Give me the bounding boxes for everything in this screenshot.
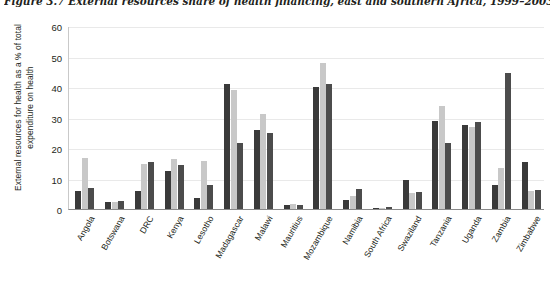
x-tick-label-wrap: Madagascar [237,214,238,215]
bar [231,90,237,209]
bar [409,193,415,209]
bar [528,191,534,209]
bar-group [462,27,481,209]
figure-container: Figure 3.7 External resources share of h… [0,0,550,297]
x-tick-label-wrap: DRC [147,214,148,215]
x-tick-label-wrap: Uganda [475,214,476,215]
x-tick-label: Zimbabwe [514,214,542,253]
x-tick-label: Botswana [99,214,127,252]
bar-group [313,27,332,209]
bar [373,208,379,209]
x-tick-label-wrap: Tanzania [445,214,446,215]
bar-group [105,27,124,209]
bar [498,168,504,209]
bar [432,121,438,209]
bar [105,202,111,209]
bar [75,191,81,209]
page-title: Figure 3.7 External resources share of h… [4,0,550,8]
bar-group [194,27,213,209]
y-tick-label: 10 [2,176,62,186]
bar [194,198,200,209]
bar [201,161,207,209]
bar [254,130,260,209]
x-tick-label-wrap: Botswana [118,214,119,215]
bar [148,162,154,209]
bar-group [254,27,273,209]
bar-group [165,27,184,209]
bar [386,207,392,209]
bar [297,205,303,209]
x-axis-category-labels: AngolaBotswanaDRCKenyaLesothoMadagascarM… [68,212,544,297]
x-tick-label: Madagascar [213,214,245,260]
x-tick-label: Mozambique [301,214,334,262]
bar-group [135,27,154,209]
x-tick-label: Swaziland [396,214,424,253]
x-tick-label: Namibia [340,214,364,246]
bar-group [343,27,362,209]
bar [343,200,349,209]
bar [178,165,184,209]
bar [522,162,528,209]
x-tick-label: Angola [74,214,96,242]
bar [379,208,385,209]
bar [505,73,511,209]
bar [535,190,541,209]
bar-group [373,27,392,209]
bar [224,84,230,209]
x-tick-label-wrap: Kenya [177,214,178,215]
bar [135,191,141,209]
x-tick-label: Kenya [165,214,186,240]
y-tick-label: 60 [2,23,62,33]
x-tick-label: Uganda [460,214,484,245]
bar [350,196,356,209]
bar [88,188,94,209]
bar-group [522,27,541,209]
bar [141,164,147,209]
x-tick-label: Lesotho [192,214,216,245]
bar [313,87,319,209]
bar [356,189,362,209]
bar [171,159,177,209]
bar-group [75,27,94,209]
bar [445,143,451,209]
x-tick-label-wrap: Lesotho [207,214,208,215]
y-tick-label: 40 [2,84,62,94]
plot-area [68,27,544,210]
x-tick-label: Malawi [253,214,275,242]
bar [112,202,118,209]
x-tick-label-wrap: Mauritius [296,214,297,215]
bar [475,122,481,209]
bar [284,205,290,209]
x-tick-label-wrap: Zimbabwe [534,214,535,215]
x-tick-label-wrap: Zambia [504,214,505,215]
bar [492,185,498,209]
x-tick-label: Zambia [490,214,513,244]
bar [469,127,475,209]
bar-series-layer [69,27,544,209]
bar [416,192,422,209]
y-tick-label: 30 [2,115,62,125]
x-tick-label-wrap: Swaziland [415,214,416,215]
y-tick-label: 20 [2,145,62,155]
y-axis-tick-labels: 0102030405060 [0,27,68,210]
bar-group [284,27,303,209]
x-tick-label-wrap: Malawi [266,214,267,215]
bar [290,204,296,209]
x-tick-label: Mauritius [279,214,305,249]
x-tick-label: South Africa [362,214,394,259]
x-tick-label-wrap: Angola [88,214,89,215]
bar [439,106,445,209]
x-tick-label-wrap: Namibia [356,214,357,215]
bar [207,185,213,209]
bar-group [432,27,451,209]
bar-group [403,27,422,209]
bar [320,63,326,209]
x-tick-label-wrap: Mozambique [326,214,327,215]
bar [237,143,243,209]
x-tick-label-wrap: South Africa [385,214,386,215]
y-tick-label: 0 [2,206,62,216]
bar-group [492,27,511,209]
y-tick-label: 50 [2,54,62,64]
bar [118,201,124,209]
bar [462,125,468,209]
